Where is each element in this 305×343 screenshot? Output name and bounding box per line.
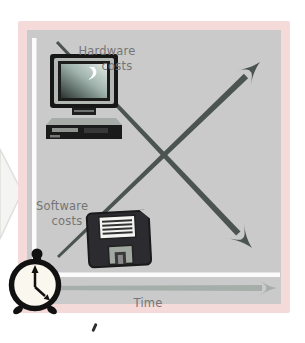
alarm-clock-icon [6, 244, 66, 320]
x-axis-line [32, 273, 280, 278]
figure-canvas: Hardware costs Software costs Time [0, 0, 305, 343]
hardware-costs-label: Hardware costs [76, 44, 138, 74]
software-costs-label-line1: Software [36, 199, 88, 213]
time-axis-label: Time [120, 296, 176, 311]
floppy-disk-icon [82, 208, 155, 272]
stray-mark [91, 323, 97, 332]
hardware-costs-label-line2: costs [86, 59, 148, 74]
hardware-costs-label-line1: Hardware [78, 44, 135, 58]
y-axis-line [32, 38, 37, 277]
software-costs-label: Software costs [36, 199, 88, 229]
software-costs-label-line2: costs [41, 214, 93, 229]
